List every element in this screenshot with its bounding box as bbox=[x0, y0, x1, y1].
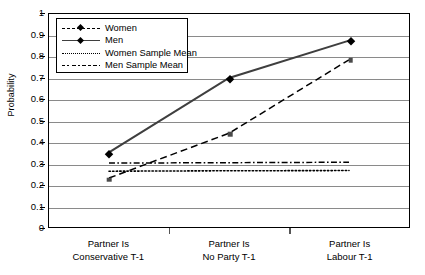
y-tick-mark bbox=[40, 56, 45, 57]
data-point-marker bbox=[347, 37, 355, 45]
y-tick-label: 0.1 bbox=[10, 202, 44, 212]
legend-label-men-sample-mean: Men Sample Mean bbox=[105, 60, 183, 71]
legend-item-men: Men bbox=[61, 35, 183, 47]
y-tick-mark bbox=[40, 78, 45, 79]
y-tick-label: 0.2 bbox=[10, 180, 44, 190]
legend-key-men-icon bbox=[61, 35, 101, 46]
legend-item-men-sample-mean: Men Sample Mean bbox=[61, 60, 183, 72]
y-tick-label: 0 bbox=[10, 223, 44, 233]
y-tick-label: 0.8 bbox=[10, 51, 44, 61]
legend-key-men-sample-mean-icon bbox=[61, 60, 101, 71]
y-tick-label: 0.5 bbox=[10, 116, 44, 126]
data-point-marker bbox=[228, 132, 233, 137]
x-axis-label: Partner IsNo Party T-1 bbox=[169, 238, 289, 263]
legend-key-women-icon bbox=[61, 23, 101, 34]
legend-label-men: Men bbox=[105, 35, 123, 46]
probability-line-chart: Probability 10.90.80.70.60.50.40.30.20.1… bbox=[0, 0, 425, 275]
y-tick-label: 1 bbox=[10, 8, 44, 18]
x-axis-label: Partner IsConservative T-1 bbox=[48, 238, 168, 263]
legend-label-women-sample-mean: Women Sample Mean bbox=[105, 48, 197, 59]
legend-label-women: Women bbox=[105, 23, 137, 34]
legend-key-women-sample-mean-icon bbox=[61, 48, 101, 59]
y-tick-label: 0.6 bbox=[10, 94, 44, 104]
x-axis-label: Partner IsLabour T-1 bbox=[290, 238, 410, 263]
legend-item-women: Women bbox=[61, 22, 183, 34]
data-point-marker bbox=[105, 150, 113, 158]
chart-legend: Women Men Women Sample Mean Men Sample M… bbox=[56, 18, 188, 73]
data-point-marker bbox=[226, 75, 234, 83]
y-tick-mark bbox=[40, 121, 45, 122]
y-tick-label: 0.7 bbox=[10, 73, 44, 83]
y-tick-label: 0.9 bbox=[10, 30, 44, 40]
y-tick-label: 0.4 bbox=[10, 137, 44, 147]
data-point-marker bbox=[348, 58, 353, 63]
y-tick-mark bbox=[40, 142, 45, 143]
y-tick-mark bbox=[40, 35, 45, 36]
data-point-marker bbox=[107, 177, 112, 182]
y-axis-ticks: 10.90.80.70.60.50.40.30.20.10 bbox=[0, 13, 44, 228]
y-tick-mark bbox=[40, 185, 45, 186]
x-tick-mark bbox=[289, 228, 290, 234]
legend-item-women-sample-mean: Women Sample Mean bbox=[61, 47, 183, 59]
y-tick-mark bbox=[40, 13, 45, 14]
y-tick-label: 0.3 bbox=[10, 159, 44, 169]
y-tick-mark bbox=[40, 164, 45, 165]
y-tick-mark bbox=[40, 228, 45, 229]
y-tick-mark bbox=[40, 99, 45, 100]
x-tick-mark bbox=[169, 228, 170, 234]
y-tick-mark bbox=[40, 207, 45, 208]
